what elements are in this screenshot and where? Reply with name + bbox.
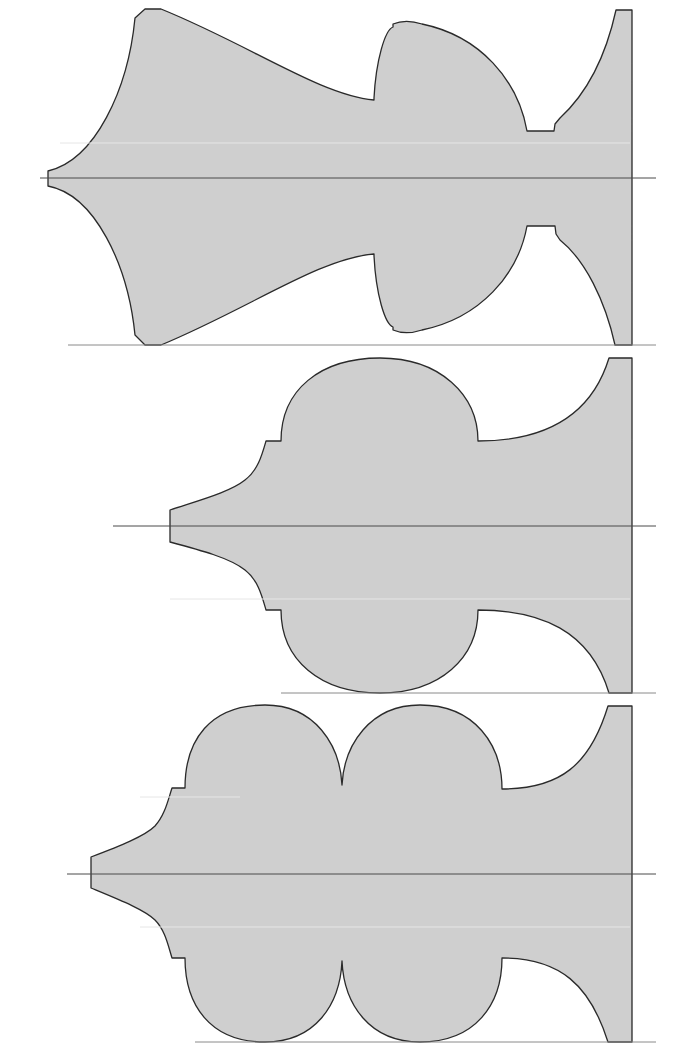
profile-1-shape — [48, 9, 632, 345]
profile-1 — [48, 9, 632, 345]
diagram-canvas — [0, 0, 696, 1049]
